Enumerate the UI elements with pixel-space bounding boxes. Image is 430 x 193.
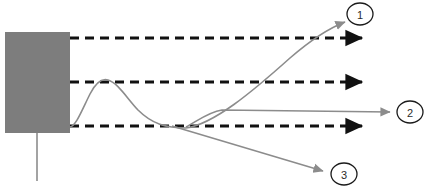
gray-block bbox=[5, 32, 70, 133]
callout-1[interactable]: 1 bbox=[347, 3, 373, 25]
callout-2[interactable]: 2 bbox=[397, 101, 423, 123]
callout-3[interactable]: 3 bbox=[331, 163, 357, 185]
diagram-canvas: 1 2 3 bbox=[0, 0, 430, 193]
branch-to-callout-3 bbox=[172, 126, 323, 171]
callout-2-label: 2 bbox=[407, 107, 413, 119]
callout-3-label: 3 bbox=[341, 169, 347, 181]
response-curve bbox=[70, 80, 186, 128]
diagram-svg: 1 2 3 bbox=[0, 0, 430, 193]
callout-1-label: 1 bbox=[357, 9, 363, 21]
